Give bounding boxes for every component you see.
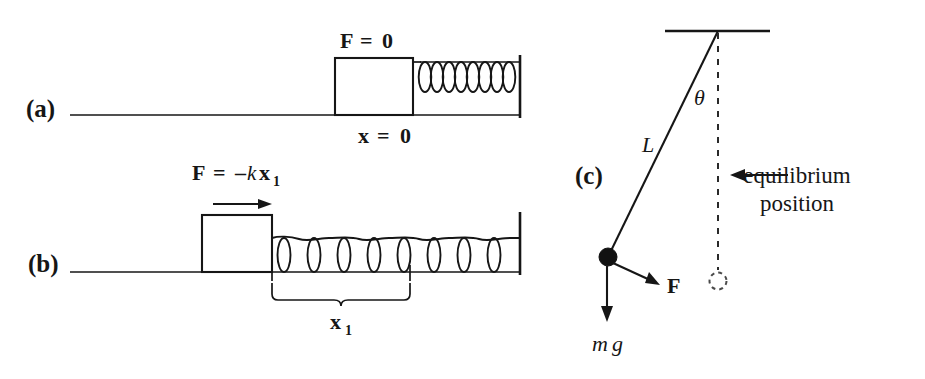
label-angle-theta: θ [694, 85, 705, 110]
label-force-b-relation: = [213, 160, 226, 185]
force-arrow-c [613, 263, 660, 285]
label-position-a-value: 0 [400, 123, 411, 148]
label-weight-g: g [612, 331, 623, 356]
label-length-L: L [641, 132, 654, 157]
panel-a: F = 0 x = 0 (a) [26, 28, 520, 148]
label-force-a-relation: = [360, 28, 373, 53]
label-position-a-symbol: x [358, 123, 369, 148]
label-force-a-symbol: F [340, 28, 353, 53]
physics-figure: F = 0 x = 0 (a) [0, 0, 925, 379]
panel-b: F = – k x 1 x 1 (b) [28, 160, 520, 338]
label-force-c: F [667, 273, 680, 298]
label-equilibrium-line1: equilibrium [743, 163, 850, 188]
label-weight-m: m [592, 331, 608, 356]
panel-c: θ L F m g equilibrium position (c) [575, 31, 851, 356]
pendulum-rod [608, 31, 718, 257]
panel-tag-b: (b) [28, 250, 59, 278]
label-force-b-symbol: F [192, 160, 205, 185]
label-position-a-relation: = [377, 123, 390, 148]
panel-tag-c: (c) [575, 162, 603, 190]
spring-b [272, 237, 520, 272]
label-displacement-b-subscript: 1 [345, 323, 352, 338]
figure-canvas: F = 0 x = 0 (a) [0, 0, 925, 379]
label-force-b-subscript: 1 [273, 174, 280, 189]
spring-a [413, 62, 520, 92]
weight-arrow-c [601, 266, 613, 322]
label-displacement-b-symbol: x [330, 309, 341, 334]
block-b [202, 215, 272, 272]
panel-tag-a: (a) [26, 95, 55, 123]
label-equilibrium-line2: position [760, 191, 835, 216]
dimension-brace-b [272, 283, 410, 306]
equilibrium-ghost-bob [710, 273, 727, 290]
label-force-b-k: k [247, 161, 257, 185]
label-force-a-value: 0 [382, 28, 393, 53]
block-a [335, 58, 413, 115]
force-arrow-b [213, 199, 272, 209]
label-force-b-minus: – [234, 160, 247, 185]
label-force-b-x: x [259, 160, 270, 185]
